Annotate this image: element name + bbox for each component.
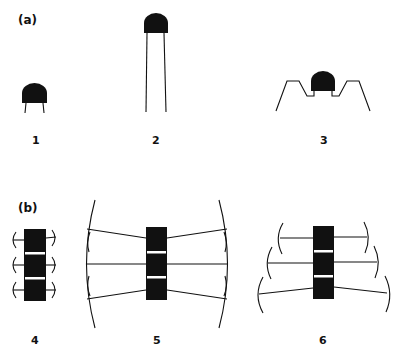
lead (334, 287, 387, 293)
component-5 (86, 200, 228, 328)
lead (87, 229, 146, 238)
dome-body-icon (144, 13, 168, 33)
component-4 (13, 229, 56, 301)
diagram-canvas: (a) (b) 1 2 3 4 (0, 0, 399, 358)
panel-label-b: (b) (18, 201, 38, 215)
component-2 (144, 13, 168, 112)
block-body-icon (24, 229, 46, 301)
lead (87, 290, 146, 299)
stripe (314, 250, 333, 253)
lead (167, 229, 227, 238)
stripe (147, 251, 166, 254)
lead-right (43, 103, 44, 113)
component-label-6: 6 (319, 334, 327, 347)
arc (52, 230, 55, 246)
lead-left (25, 103, 26, 113)
component-6 (258, 222, 390, 313)
lead-right (332, 81, 370, 111)
dome-body-icon (311, 71, 335, 91)
component-3 (276, 71, 370, 111)
component-label-2: 2 (152, 134, 160, 147)
lead (259, 288, 313, 294)
panel-label-a: (a) (18, 13, 37, 27)
lead-right (164, 33, 166, 112)
lead (167, 290, 227, 299)
arc (385, 276, 390, 312)
component-label-3: 3 (320, 134, 328, 147)
lead-left (276, 81, 314, 111)
stripe (25, 277, 45, 280)
component-1 (22, 83, 47, 113)
stripe (147, 276, 166, 279)
block-body-icon (313, 226, 334, 299)
stripe (314, 275, 333, 278)
arc (258, 277, 263, 313)
component-label-5: 5 (153, 334, 161, 347)
dome-body-icon (22, 83, 47, 103)
block-body-icon (146, 227, 167, 300)
lead-left (146, 33, 147, 112)
component-label-4: 4 (31, 334, 39, 347)
component-label-1: 1 (32, 134, 40, 147)
stripe (25, 252, 45, 255)
